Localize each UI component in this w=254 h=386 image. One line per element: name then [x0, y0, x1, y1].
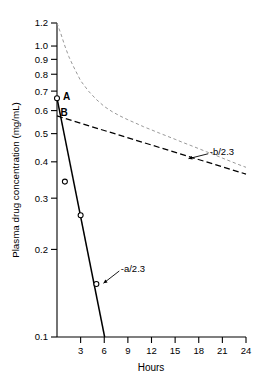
x-tick-label: 12	[146, 345, 157, 356]
y-tick-label: 0.7	[35, 86, 48, 97]
y-tick-label: 0.3	[35, 193, 48, 204]
y-axis-ticks	[51, 23, 57, 337]
y-axis-title: Plasma drug concentration (mg/mL)	[10, 102, 21, 258]
slope-a-annotation: -a/2.3	[121, 263, 145, 274]
x-tick-label: 24	[241, 345, 252, 356]
x-tick-label: 3	[78, 345, 83, 356]
x-tick-label: 15	[170, 345, 181, 356]
y-tick-label: 0.9	[35, 54, 48, 65]
semilog-pharmacokinetic-chart: 0.10.20.30.40.50.60.70.80.91.01.2 369121…	[0, 0, 254, 386]
x-tick-label: 21	[217, 345, 228, 356]
y-tick-label: 0.6	[35, 105, 48, 116]
x-axis-ticks	[81, 337, 246, 343]
intercept-B-label: B	[61, 107, 68, 118]
x-tick-label: 18	[193, 345, 204, 356]
point-residual-point-0	[55, 96, 60, 101]
figure-container: 0.10.20.30.40.50.60.70.80.91.01.2 369121…	[0, 0, 254, 386]
x-axis-title: Hours	[138, 362, 165, 373]
y-tick-label: 1.0	[35, 40, 48, 51]
point-residual-point-3	[94, 282, 99, 287]
slope-b-annotation: -b/2.3	[210, 146, 234, 157]
axes-group	[57, 23, 246, 337]
y-tick-label: 0.8	[35, 69, 48, 80]
intercept-A-label: A	[63, 91, 70, 102]
data-point-markers	[55, 96, 99, 287]
y-tick-label: 1.2	[35, 17, 48, 28]
x-tick-label: 9	[125, 345, 130, 356]
point-residual-point-1	[62, 179, 67, 184]
point-residual-point-2	[78, 213, 83, 218]
y-tick-label: 0.5	[35, 128, 48, 139]
x-axis-tick-labels: 3691215182124	[78, 345, 251, 356]
annotation-arrows	[103, 154, 208, 284]
y-tick-label: 0.4	[35, 156, 48, 167]
y-tick-label: 0.2	[35, 244, 48, 255]
y-tick-label: 0.1	[35, 331, 48, 342]
data-series-group	[57, 23, 246, 337]
y-axis-tick-labels: 0.10.20.30.40.50.60.70.80.91.01.2	[35, 17, 48, 342]
x-tick-label: 6	[102, 345, 107, 356]
